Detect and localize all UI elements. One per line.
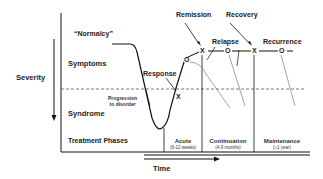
phase-maintenance-duration: (≥1 year)	[254, 145, 310, 150]
x-axis-label: Time	[153, 165, 170, 173]
annotation-recurrence: Recurrence	[263, 38, 302, 45]
state-treatment-phases: Treatment Phases	[68, 137, 128, 144]
marker-x-response: X	[176, 93, 181, 100]
annotation-relapse: Relapse	[212, 38, 239, 45]
marker-x-recovery: X	[252, 47, 257, 54]
phase-acute-duration: (6-12 weeks)	[164, 145, 202, 150]
annotation-progression: Progression to disorder	[108, 96, 137, 108]
phase-maintenance-name: Maintenance	[254, 138, 310, 145]
treatment-phases-diagram: Severity Time “Normalcy” Symptoms Syndro…	[0, 0, 323, 179]
annotation-recovery: Recovery	[226, 11, 258, 18]
annotation-progression-line2: to disorder	[108, 102, 137, 108]
time-arrow	[144, 157, 220, 162]
phase-continuation-name: Continuation	[202, 138, 254, 145]
diagram-graphics	[0, 0, 323, 179]
marker-o-response: O	[184, 56, 189, 63]
y-axis-label: Severity	[16, 74, 45, 82]
severity-curve	[112, 44, 184, 129]
marker-x-remission: X	[200, 47, 205, 54]
marker-o-relapse: O	[225, 47, 230, 54]
phase-acute-name: Acute	[164, 138, 202, 145]
state-syndrome: Syndrome	[68, 110, 105, 118]
state-symptoms: Symptoms	[68, 60, 106, 68]
severity-arrow	[52, 39, 57, 121]
phase-acute: Acute (6-12 weeks)	[164, 138, 202, 150]
phase-continuation: Continuation (4-9 months)	[202, 138, 254, 150]
phase-continuation-duration: (4-9 months)	[202, 145, 254, 150]
state-normalcy: “Normalcy”	[74, 30, 113, 37]
marker-o-recurrence: O	[279, 47, 284, 54]
annotation-remission: Remission	[176, 11, 211, 18]
annotation-response: Response	[143, 70, 176, 77]
phase-maintenance: Maintenance (≥1 year)	[254, 138, 310, 150]
